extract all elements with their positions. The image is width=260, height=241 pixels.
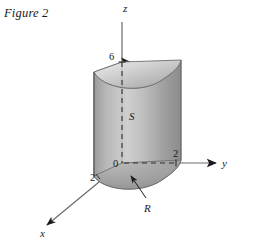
figure-container: Figure 2 <box>0 0 260 241</box>
y-axis-label: y <box>221 157 227 169</box>
solid-label-s: S <box>129 110 135 122</box>
solid-diagram-svg: z y x 6 2 2 0 S R <box>0 0 260 241</box>
x-tick-label-2: 2 <box>90 172 95 183</box>
x-axis-label: x <box>39 227 45 239</box>
region-label-r: R <box>143 202 151 214</box>
z-axis-label: z <box>122 2 128 14</box>
z-tick-label-6: 6 <box>109 51 114 62</box>
solid-s <box>94 60 181 189</box>
y-tick-label-2: 2 <box>173 148 178 159</box>
origin-label: 0 <box>113 158 118 169</box>
